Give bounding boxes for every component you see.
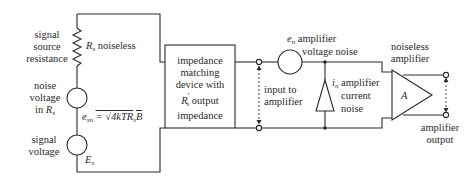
rs-noiseless-text: noiseless (98, 40, 136, 51)
amplifier-output-label: amplifier output (405, 122, 475, 146)
label-line: impedance (165, 55, 235, 67)
en-voltage-noise-source-icon (278, 50, 302, 74)
esn-formula: = √4kTR (96, 111, 134, 122)
esn-formula-label: esn = √4kTRsB (82, 111, 142, 126)
signal-source-resistance-label: signal source resistance (22, 29, 72, 65)
label-line: voltage (22, 92, 68, 104)
rs-noiseless-label: Rs noiseless (86, 40, 136, 55)
label-line: device with (165, 79, 235, 91)
in-word: in (35, 104, 43, 115)
label-line: resistance (22, 53, 72, 65)
label-line: output (405, 134, 475, 146)
en-label-line2: voltage noise (302, 46, 358, 58)
rs-sub: s (186, 100, 189, 108)
input-terminal-top (256, 59, 261, 64)
label-line: noise (22, 80, 68, 92)
noiseless-amplifier-label: noiseless amplifier (380, 41, 440, 65)
rs-sub: s (92, 45, 95, 53)
noise-voltage-label: noise voltage in Rs (22, 80, 68, 119)
label-line: amplifier (298, 33, 336, 44)
input-terminal-bottom (256, 125, 261, 130)
label-line: voltage (24, 146, 64, 158)
rs-sub: s (52, 109, 55, 117)
es-label: Es (85, 154, 94, 169)
output-terminal-bottom (443, 112, 448, 117)
es-sub: s (91, 159, 94, 167)
label-line: input to (264, 84, 302, 96)
label-line: in Rs (22, 104, 68, 119)
resistor-rs (73, 28, 81, 66)
label-line: amplifier (341, 77, 379, 88)
in-sub: n (335, 82, 339, 90)
esn-sub: sn (87, 116, 93, 124)
label-line: matching (165, 67, 235, 79)
label-line: signal (22, 29, 72, 41)
label-line: impedance (165, 110, 235, 122)
label-line: amplifier (380, 53, 440, 65)
en-sub: n (292, 38, 296, 46)
noise-voltage-source-icon (67, 88, 87, 108)
amp-gain-label: A (401, 90, 407, 102)
label-line: amplifier (405, 122, 475, 134)
signal-voltage-label: signal voltage (24, 134, 64, 158)
label-line: signal (24, 134, 64, 146)
impedance-matching-label: impedance matching device with R′s outpu… (165, 55, 235, 122)
label-line: R′s output (165, 91, 235, 110)
label-line: amplifier (264, 96, 302, 108)
in-label-line3: noise (341, 103, 363, 115)
output-terminal-top (443, 72, 448, 77)
in-label-line2: current (341, 90, 371, 102)
label-line: noiseless (380, 41, 440, 53)
input-to-amplifier-label: input to amplifier (264, 84, 302, 108)
esn-formula-tail: B (136, 111, 142, 122)
output-word: output (192, 95, 219, 106)
label-line: source (22, 41, 72, 53)
signal-voltage-source-icon (67, 135, 87, 155)
amplifier-triangle-icon (392, 70, 432, 120)
